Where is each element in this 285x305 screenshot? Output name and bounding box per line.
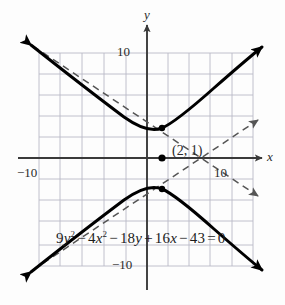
x-tick-label-neg10: −10 xyxy=(17,166,37,179)
center-point xyxy=(158,154,165,161)
asymptote-positive-slope xyxy=(33,120,258,270)
eq-rhs: 0 xyxy=(218,230,226,246)
eq-op1: − xyxy=(75,230,88,246)
y-axis-label: y xyxy=(144,8,150,21)
hyperbola-figure: y x 10 −10 −10 10 (2, 1) 9y2−4x2−18y+16x… xyxy=(0,0,285,305)
eq-term2-var: x xyxy=(96,230,103,246)
equation-label: 9y2−4x2−18y+16x−43=0 xyxy=(56,229,226,247)
eq-op4: − xyxy=(177,230,190,246)
x-axis-label: x xyxy=(267,150,273,163)
y-tick-label-neg10: −10 xyxy=(112,258,132,271)
eq-op2: − xyxy=(107,230,120,246)
x-tick-label-10: 10 xyxy=(214,166,227,179)
eq-op3: + xyxy=(142,230,155,246)
y-tick-label-10: 10 xyxy=(117,45,130,58)
center-point-label: (2, 1) xyxy=(172,144,202,158)
vertex-upper-point xyxy=(159,125,165,131)
plot-canvas xyxy=(0,0,285,305)
eq-constant: 43 xyxy=(190,230,205,246)
vertex-lower-point xyxy=(159,186,165,192)
eq-term4-coef: 16 xyxy=(155,230,170,246)
eq-term1-var: y xyxy=(64,230,71,246)
eq-equals: = xyxy=(205,230,218,246)
eq-term2-coef: 4 xyxy=(88,230,96,246)
eq-term3-coef: 18 xyxy=(120,230,135,246)
eq-term1-coef: 9 xyxy=(56,230,64,246)
